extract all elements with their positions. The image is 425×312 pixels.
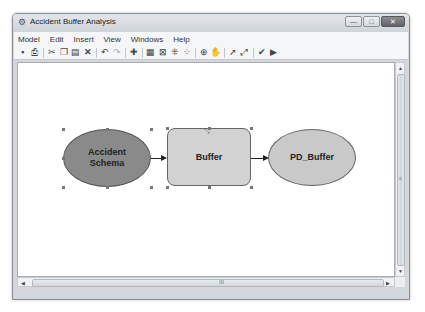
menu-insert[interactable]: Insert [74, 35, 94, 44]
node-label: AccidentSchema [88, 147, 126, 169]
fixed-zoom-in-icon[interactable]: ⁜ [169, 47, 180, 58]
scroll-grip-icon: III [219, 279, 224, 285]
scroll-up-arrow[interactable]: ▲ [398, 65, 403, 71]
copy-icon[interactable]: ❐ [58, 47, 69, 58]
zoom-in-icon[interactable]: ⊕ [198, 47, 209, 58]
selection-handle[interactable] [150, 186, 153, 189]
toolbar-separator [195, 48, 196, 58]
menu-help[interactable]: Help [173, 35, 189, 44]
toolbar-separator [125, 48, 126, 58]
scroll-left-arrow[interactable]: ◀ [21, 280, 25, 286]
run-icon[interactable]: ▶ [268, 47, 279, 58]
toolbar: ▪ ⎙ ✂ ❐ ▤ ✕ ↶ ↷ ✚ ▦ ⊠ ⁜ ⁘ ⊕ ✋ ➚ ⤢ ✔ ▶ [14, 46, 408, 60]
add-data-icon[interactable]: ✚ [128, 47, 139, 58]
title-bar[interactable]: ⚙ Accident Buffer Analysis — □ ✕ [13, 14, 409, 32]
select-icon[interactable]: ➚ [227, 47, 238, 58]
selection-handle[interactable] [250, 127, 253, 130]
node-accident-schema[interactable]: AccidentSchema [63, 129, 151, 187]
model-canvas[interactable]: AccidentSchema Buffer ⤡ PD_Buffer [17, 62, 395, 277]
model-builder-window: ⚙ Accident Buffer Analysis — □ ✕ Model E… [12, 13, 410, 300]
node-label: PD_Buffer [290, 152, 334, 163]
scroll-right-arrow[interactable]: ▶ [386, 280, 390, 286]
node-buffer[interactable]: Buffer [167, 128, 251, 186]
selection-handle[interactable] [150, 128, 153, 131]
print-icon[interactable]: ⎙ [29, 47, 40, 58]
scroll-grip-icon: ≡ [399, 175, 402, 181]
redo-icon[interactable]: ↷ [111, 47, 122, 58]
save-icon[interactable]: ▪ [17, 47, 28, 58]
validate-icon[interactable]: ✔ [256, 47, 267, 58]
pan-icon[interactable]: ✋ [210, 47, 221, 58]
full-extent-icon[interactable]: ⊠ [157, 47, 168, 58]
scroll-down-arrow[interactable]: ▼ [398, 268, 403, 274]
connector-line [151, 158, 161, 159]
selection-handle[interactable] [106, 186, 109, 189]
vertical-scroll-thumb[interactable]: ≡ [397, 74, 405, 266]
undo-icon[interactable]: ↶ [99, 47, 110, 58]
menu-bar: Model Edit Insert View Windows Help [14, 32, 408, 46]
selection-handle[interactable] [208, 127, 211, 130]
connector-line [251, 158, 263, 159]
node-label-line: Schema [90, 158, 125, 168]
menu-edit[interactable]: Edit [50, 35, 64, 44]
vertical-scrollbar[interactable]: ▲ ≡ ▼ [395, 62, 405, 277]
cut-icon[interactable]: ✂ [46, 47, 57, 58]
selection-handle[interactable] [250, 186, 253, 189]
window-title: Accident Buffer Analysis [30, 17, 116, 26]
auto-layout-icon[interactable]: ▦ [145, 47, 156, 58]
menu-model[interactable]: Model [18, 35, 40, 44]
node-pd-buffer[interactable]: PD_Buffer [268, 129, 356, 186]
menu-windows[interactable]: Windows [131, 35, 163, 44]
horizontal-scrollbar[interactable]: ◀ III ▶ [17, 277, 395, 287]
toolbar-separator [43, 48, 44, 58]
toolbar-separator [253, 48, 254, 58]
paste-icon[interactable]: ▤ [70, 47, 81, 58]
maximize-button[interactable]: □ [363, 16, 380, 27]
close-button[interactable]: ✕ [381, 16, 405, 27]
selection-handle[interactable] [166, 186, 169, 189]
selection-handle[interactable] [62, 128, 65, 131]
node-label: Buffer [196, 152, 223, 163]
toolbar-separator [224, 48, 225, 58]
scrollbar-corner [395, 277, 405, 287]
selection-handle[interactable] [106, 128, 109, 131]
menu-view[interactable]: View [104, 35, 121, 44]
minimize-button[interactable]: — [345, 16, 362, 27]
connect-icon[interactable]: ⤢ [239, 47, 250, 58]
fixed-zoom-out-icon[interactable]: ⁘ [181, 47, 192, 58]
toolbar-separator [96, 48, 97, 58]
selection-handle[interactable] [208, 186, 211, 189]
toolbar-separator [142, 48, 143, 58]
delete-icon[interactable]: ✕ [82, 47, 93, 58]
node-label-line: Accident [88, 147, 126, 157]
selection-handle[interactable] [166, 127, 169, 130]
selection-handle[interactable] [62, 157, 65, 160]
model-builder-icon: ⚙ [18, 17, 30, 28]
horizontal-scroll-thumb[interactable]: III [32, 279, 384, 287]
selection-handle[interactable] [62, 186, 65, 189]
